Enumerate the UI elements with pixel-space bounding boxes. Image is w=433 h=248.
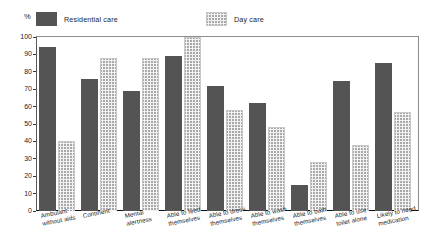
bar-group: [165, 37, 203, 211]
bar-group: [249, 37, 287, 211]
y-axis-tick: 40: [24, 136, 36, 146]
y-axis-tick: 60: [24, 102, 36, 112]
bar-day-care: [184, 37, 201, 211]
legend-label-residential-care: Residential care: [64, 15, 118, 24]
y-axis-tick-label: 30: [24, 154, 32, 164]
y-axis-tick: 20: [24, 171, 36, 181]
bar-residential-care: [207, 86, 224, 211]
legend-swatch-day-care-icon: [206, 12, 227, 26]
bar-day-care: [226, 110, 243, 211]
y-axis-tick-label: 50: [24, 119, 32, 129]
y-axis-tick-label: 0: [28, 206, 32, 216]
percent-axis-symbol: %: [24, 12, 31, 21]
bar-chart: % Residential care Day care 100908070605…: [0, 0, 433, 248]
y-axis-tick-label: 70: [24, 84, 32, 94]
y-axis-tick: 100: [20, 32, 36, 42]
bar-group: [207, 37, 245, 211]
bar-day-care: [352, 145, 369, 211]
bar-residential-care: [123, 91, 140, 211]
y-axis-tick: 90: [24, 49, 36, 59]
bar-day-care: [268, 127, 285, 211]
y-axis-tick-label: 90: [24, 49, 32, 59]
y-axis-tick: 10: [24, 189, 36, 199]
y-axis-tick: 70: [24, 84, 36, 94]
bars-layer: [37, 37, 418, 211]
bar-group: [333, 37, 371, 211]
y-axis-tick: 0: [28, 206, 36, 216]
bar-group: [81, 37, 119, 211]
legend-entry-day-care: Day care: [206, 12, 264, 26]
bar-residential-care: [39, 47, 56, 211]
bar-group: [291, 37, 329, 211]
chart-legend: Residential care Day care: [36, 9, 264, 29]
bar-day-care: [310, 162, 327, 211]
legend-swatch-residential-care-icon: [36, 12, 57, 26]
y-axis-tick-label: 40: [24, 136, 32, 146]
y-axis-tick-label: 100: [20, 32, 32, 42]
bar-residential-care: [81, 79, 98, 211]
y-axis-tick-label: 80: [24, 67, 32, 77]
y-axis-tick-label: 20: [24, 171, 32, 181]
y-axis-tick-label: 60: [24, 102, 32, 112]
y-axis: 1009080706050403020100: [0, 30, 36, 217]
y-axis-tick: 80: [24, 67, 36, 77]
bar-group: [123, 37, 161, 211]
y-axis-tick: 50: [24, 119, 36, 129]
bar-residential-care: [375, 63, 392, 211]
x-axis-labels: Ambulant without aidsContinentMental ale…: [37, 212, 418, 248]
bar-residential-care: [249, 103, 266, 211]
y-axis-tick: 30: [24, 154, 36, 164]
legend-entry-residential-care: Residential care: [36, 12, 118, 26]
legend-label-day-care: Day care: [234, 15, 264, 24]
bar-group: [375, 37, 413, 211]
bar-residential-care: [165, 56, 182, 211]
bar-residential-care: [333, 81, 350, 212]
bar-day-care: [58, 141, 75, 211]
bar-day-care: [100, 58, 117, 211]
bar-group: [39, 37, 77, 211]
bar-day-care: [142, 58, 159, 211]
y-axis-tick-label: 10: [24, 189, 32, 199]
bar-day-care: [394, 112, 411, 211]
